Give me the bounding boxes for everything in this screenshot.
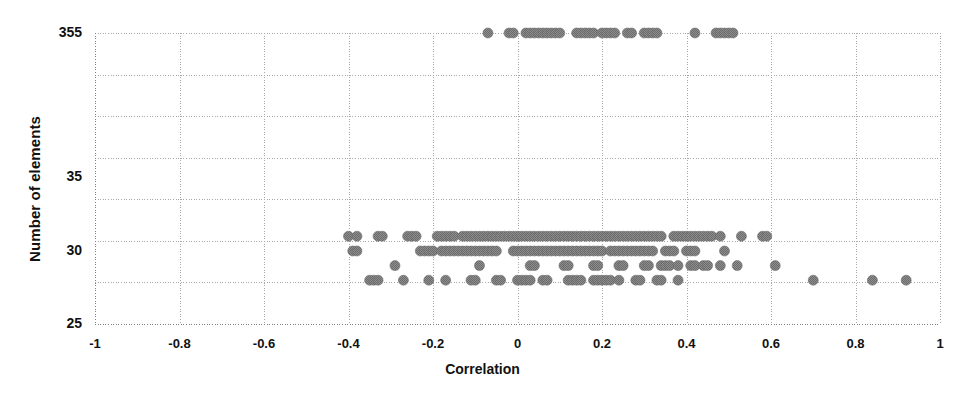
data-point xyxy=(542,275,552,285)
x-axis-tick-label: 0.6 xyxy=(741,336,801,351)
data-point xyxy=(690,246,700,256)
x-axis-label-text: Correlation xyxy=(0,361,965,377)
data-point xyxy=(867,275,877,285)
data-point xyxy=(703,261,713,271)
data-point xyxy=(491,246,501,256)
data-point xyxy=(377,231,387,241)
x-axis-tick-label: -0.2 xyxy=(403,336,463,351)
data-point xyxy=(563,261,573,271)
data-point xyxy=(762,231,772,241)
data-point xyxy=(441,275,451,285)
y-axis-tick-label: 25 xyxy=(20,315,82,331)
data-point xyxy=(720,246,730,256)
data-point xyxy=(352,246,362,256)
data-point xyxy=(614,275,624,285)
data-point xyxy=(390,261,400,271)
x-axis-tick-label: 0.2 xyxy=(572,336,632,351)
data-point xyxy=(508,28,518,38)
data-point xyxy=(673,261,683,271)
x-axis-tick-label: -1 xyxy=(65,336,125,351)
data-point xyxy=(648,246,658,256)
data-point xyxy=(555,28,565,38)
data-point xyxy=(496,275,506,285)
data-point xyxy=(470,275,480,285)
data-point xyxy=(424,275,434,285)
data-point xyxy=(610,28,620,38)
plot-canvas xyxy=(0,0,965,394)
data-point xyxy=(770,261,780,271)
data-point xyxy=(732,261,742,271)
data-point xyxy=(411,231,421,241)
data-point xyxy=(525,275,535,285)
data-point xyxy=(715,231,725,241)
data-point xyxy=(728,28,738,38)
data-point xyxy=(398,275,408,285)
data-point xyxy=(529,261,539,271)
data-point xyxy=(635,275,645,285)
x-axis-tick-label: -0.4 xyxy=(319,336,379,351)
scatter-chart-figure: Number of elements Correlation 355353025… xyxy=(0,0,965,394)
data-point xyxy=(627,28,637,38)
data-point xyxy=(643,261,653,271)
x-axis-tick-label: -0.6 xyxy=(234,336,294,351)
data-point xyxy=(715,261,725,271)
data-point xyxy=(474,261,484,271)
data-point xyxy=(690,28,700,38)
data-point xyxy=(808,275,818,285)
data-point xyxy=(576,275,586,285)
data-point xyxy=(652,28,662,38)
y-axis-tick-label: 35 xyxy=(20,168,82,184)
data-point xyxy=(373,275,383,285)
chart-background xyxy=(0,0,965,394)
x-axis-tick-label: 0.4 xyxy=(657,336,717,351)
data-point xyxy=(656,275,666,285)
x-axis-tick-label: 1 xyxy=(910,336,965,351)
data-point xyxy=(618,261,628,271)
x-axis-tick-label: 0 xyxy=(488,336,548,351)
data-point xyxy=(593,261,603,271)
y-axis-tick-label: 30 xyxy=(20,242,82,258)
data-point xyxy=(673,275,683,285)
x-axis-tick-label: 0.8 xyxy=(826,336,886,351)
data-point xyxy=(901,275,911,285)
data-point xyxy=(483,28,493,38)
x-axis-tick-label: -0.8 xyxy=(150,336,210,351)
data-point xyxy=(656,231,666,241)
y-axis-tick-label: 355 xyxy=(20,24,82,40)
data-point xyxy=(669,246,679,256)
data-point xyxy=(736,231,746,241)
data-point xyxy=(352,231,362,241)
